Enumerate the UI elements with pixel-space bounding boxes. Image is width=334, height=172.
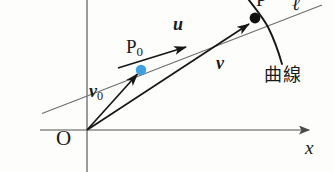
vector-v0-label-subscript: 0	[97, 89, 103, 103]
point-p0-label-subscript: 0	[137, 44, 143, 59]
vector-geometry-figure: O x P0 P ℓ u v v0 曲線	[0, 0, 334, 172]
point-p0-dot	[136, 65, 146, 75]
point-p0-label-main: P	[126, 36, 137, 57]
vector-v-label: v	[216, 54, 224, 72]
figure-canvas	[0, 0, 334, 172]
point-p-dot	[250, 13, 261, 24]
vector-v-arrow	[87, 24, 249, 130]
x-axis-label: x	[305, 138, 313, 157]
origin-label: O	[56, 128, 71, 149]
vector-v0-label: v0	[89, 82, 103, 100]
point-p0-label: P0	[126, 37, 143, 56]
point-p-label: P	[256, 0, 267, 9]
vector-u-label: u	[173, 15, 183, 33]
curve-label: 曲線	[264, 66, 302, 84]
line-ell-label: ℓ	[292, 0, 300, 13]
vector-v0-label-main: v	[89, 81, 97, 101]
